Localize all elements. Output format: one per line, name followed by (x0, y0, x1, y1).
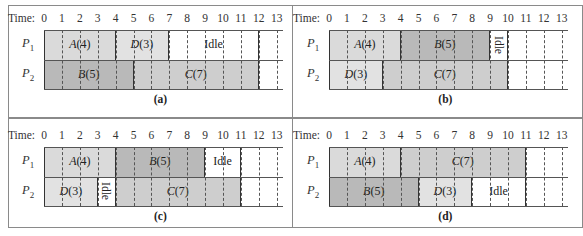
time-tick-label: 10 (217, 129, 229, 141)
processor-label-p1: P1 (22, 153, 34, 170)
row-line (329, 30, 568, 31)
time-tick-label: 4 (113, 129, 119, 141)
time-axis-label: Time: (8, 12, 35, 24)
processor-label-p1: P1 (307, 36, 319, 53)
job-block-d: D(3) (116, 30, 170, 60)
time-tick-label: 9 (202, 129, 208, 141)
time-tick-label: 3 (380, 129, 386, 141)
processor-label-p2: P2 (22, 66, 34, 83)
time-tick-label: 13 (556, 12, 568, 24)
job-block-b: B(5) (44, 60, 134, 90)
row-line (44, 206, 283, 207)
time-tick-label: 9 (487, 129, 493, 141)
processor-label-p1: P1 (22, 36, 34, 53)
job-block-d: D(3) (329, 60, 383, 90)
time-tick-label: 10 (217, 12, 229, 24)
time-tick-label: 8 (469, 129, 475, 141)
idle-block: Idle (98, 177, 116, 207)
time-tick-label: 11 (520, 129, 531, 141)
time-tick-label: 8 (184, 12, 190, 24)
row-line (329, 206, 568, 207)
time-tick-label: 6 (149, 12, 155, 24)
time-tick-label: 10 (502, 129, 514, 141)
time-axis-label: Time: (8, 129, 35, 141)
time-tick-label: 12 (538, 129, 550, 141)
row-line (329, 147, 568, 148)
time-tick-label: 13 (271, 129, 283, 141)
idle-block: Idle (472, 177, 526, 207)
time-tick-label: 13 (271, 12, 283, 24)
time-tick-label: 7 (451, 12, 457, 24)
row-line (329, 177, 568, 178)
time-axis-label: Time: (293, 129, 320, 141)
job-block-b: B(5) (116, 147, 206, 177)
job-block-d: D(3) (44, 177, 98, 207)
job-label: D(3) (345, 67, 368, 82)
row-line (44, 89, 283, 90)
row-line (329, 89, 568, 90)
time-tick-label: 11 (235, 12, 246, 24)
time-tick-label: 7 (166, 12, 172, 24)
time-tick-label: 5 (131, 129, 137, 141)
row-line (44, 30, 283, 31)
time-tick-label: 1 (344, 129, 350, 141)
job-label: B(5) (78, 67, 99, 82)
time-tick-label: 0 (41, 129, 47, 141)
panel-caption: (a) (154, 93, 167, 105)
time-tick-label: 3 (95, 12, 101, 24)
idle-label: Idle (493, 36, 505, 54)
time-tick-label: 4 (398, 129, 404, 141)
time-tick-label: 12 (253, 129, 265, 141)
idle-label: Idle (100, 182, 112, 200)
time-axis-label: Time: (293, 12, 320, 24)
job-label: D(3) (60, 184, 83, 199)
row-line (329, 60, 568, 61)
time-tick-label: 13 (556, 129, 568, 141)
job-block-b: B(5) (329, 177, 419, 207)
time-tick-label: 0 (326, 12, 332, 24)
time-tick-label: 9 (202, 12, 208, 24)
row-line (44, 177, 283, 178)
time-tick-label: 2 (77, 12, 83, 24)
time-tick-label: 6 (434, 129, 440, 141)
time-tick-label: 5 (416, 129, 422, 141)
time-tick-label: 3 (95, 129, 101, 141)
panel-caption: (b) (438, 93, 452, 105)
time-tick-label: 12 (253, 12, 265, 24)
time-tick-label: 9 (487, 12, 493, 24)
panel-divider-vertical (292, 5, 293, 228)
time-tick-label: 5 (131, 12, 137, 24)
time-tick-label: 8 (184, 129, 190, 141)
time-tick-label: 4 (113, 12, 119, 24)
time-tick-label: 0 (41, 12, 47, 24)
time-tick-label: 6 (149, 129, 155, 141)
time-tick-label: 3 (380, 12, 386, 24)
time-tick-label: 6 (434, 12, 440, 24)
time-tick-label: 10 (502, 12, 514, 24)
time-tick-label: 2 (77, 129, 83, 141)
time-tick-label: 11 (520, 12, 531, 24)
time-tick-label: 7 (166, 129, 172, 141)
time-tick-label: 1 (59, 129, 65, 141)
idle-block: Idle (490, 30, 508, 60)
job-block-b: B(5) (401, 30, 491, 60)
job-label: B(5) (363, 184, 384, 199)
time-tick-label: 8 (469, 12, 475, 24)
row-line (44, 147, 283, 148)
time-tick-label: 7 (451, 129, 457, 141)
processor-label-p2: P2 (307, 66, 319, 83)
panel-caption: (c) (154, 210, 167, 222)
time-tick-label: 4 (398, 12, 404, 24)
time-tick-label: 0 (326, 129, 332, 141)
idle-block: Idle (169, 30, 259, 60)
time-tick-label: 1 (59, 12, 65, 24)
time-tick-label: 2 (362, 129, 368, 141)
time-tick-label: 1 (344, 12, 350, 24)
panel-caption: (d) (438, 210, 452, 222)
time-tick-label: 2 (362, 12, 368, 24)
row-line (44, 60, 283, 61)
idle-label: Idle (489, 184, 508, 199)
processor-label-p2: P2 (22, 183, 34, 200)
job-block-d: D(3) (419, 177, 473, 207)
idle-label: Idle (204, 37, 223, 52)
